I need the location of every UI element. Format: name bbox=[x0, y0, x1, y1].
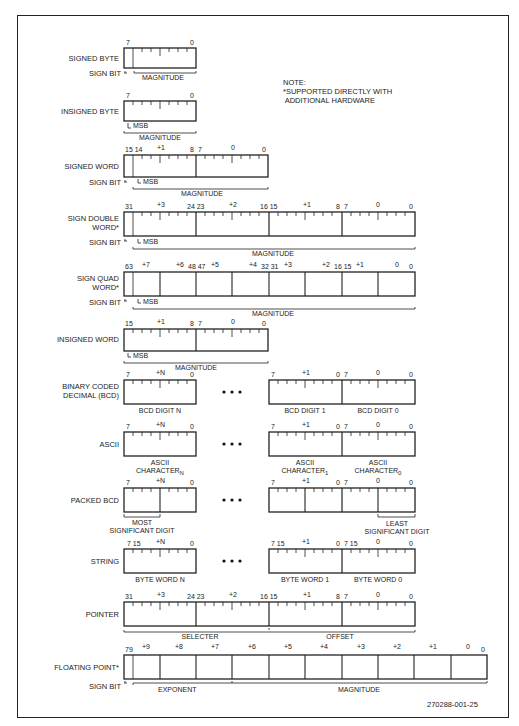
bit-7-15: 7 15 bbox=[127, 540, 141, 548]
caption-byte-word-1: BYTE WORD 1 bbox=[281, 576, 329, 584]
magnitude-label: MAGNITUDE bbox=[252, 250, 294, 258]
bit-0: 0 bbox=[190, 371, 194, 379]
bit-0: 0 bbox=[262, 146, 266, 154]
subscript: 0 bbox=[398, 470, 401, 476]
byte-offset: +1 bbox=[302, 477, 310, 485]
bcd-boxes bbox=[124, 380, 415, 404]
msb-label: MSB bbox=[143, 178, 158, 186]
label-signed-word: SIGNED WORD bbox=[64, 162, 119, 171]
bit-0: 0 bbox=[409, 371, 413, 379]
sign-bit-label: SIGN BIT bbox=[89, 682, 121, 691]
bit-16-15: 16 15 bbox=[260, 593, 278, 601]
bit-0: 0 bbox=[336, 540, 340, 548]
caption-magnitude: MAGNITUDE bbox=[338, 686, 380, 694]
magnitude-label: MAGNITUDE bbox=[181, 190, 223, 198]
bit-7-15: 7 15 bbox=[344, 540, 358, 548]
caption-ascii-1-line1: ASCII bbox=[296, 459, 314, 467]
caption-least-significant-digit: SIGNIFICANT DIGIT bbox=[365, 528, 430, 536]
bit-0: 0 bbox=[336, 479, 340, 487]
byte-offset: +N bbox=[156, 477, 165, 485]
byte-offset: +1 bbox=[303, 591, 311, 599]
byte-offset: 0 bbox=[231, 318, 235, 326]
bit-7: 7 bbox=[344, 203, 348, 211]
label-sign-quad-word-1: SIGN QUAD bbox=[77, 274, 119, 283]
magnitude-label: MAGNITUDE bbox=[252, 310, 294, 318]
bit-0: 0 bbox=[409, 479, 413, 487]
bit-7: 7 bbox=[126, 423, 130, 431]
caption-ascii-n-line1: ASCII bbox=[151, 459, 169, 467]
bit-0: 0 bbox=[262, 320, 266, 328]
byte-offset: +3 bbox=[357, 643, 365, 651]
bit-7: 7 bbox=[198, 320, 202, 328]
byte-offset: 0 bbox=[231, 144, 235, 152]
byte-offset: +3 bbox=[284, 261, 292, 269]
packed-bcd-boxes bbox=[124, 488, 415, 517]
bit-8: 8 bbox=[336, 203, 340, 211]
label-sign-double-word-1: SIGN DOUBLE bbox=[68, 214, 119, 223]
pointer-box bbox=[124, 602, 415, 632]
byte-offset: +7 bbox=[211, 643, 219, 651]
label-signed-byte: SIGNED BYTE bbox=[69, 54, 119, 63]
byte-offset: +2 bbox=[229, 201, 237, 209]
byte-offset: +9 bbox=[142, 643, 150, 651]
bit-16-15: 16 15 bbox=[334, 263, 352, 271]
bit-8: 8 bbox=[336, 593, 340, 601]
caption-text: CHARACTER bbox=[355, 467, 399, 474]
byte-offset: 0 bbox=[376, 369, 380, 377]
bit-79: 79 bbox=[125, 646, 133, 654]
byte-offset: +6 bbox=[248, 643, 256, 651]
caption-bcd-digit-1: BCD DIGIT 1 bbox=[284, 407, 325, 415]
caption-most: MOST bbox=[132, 519, 152, 527]
magnitude-label: MAGNITUDE bbox=[142, 74, 184, 82]
byte-offset: +1 bbox=[356, 261, 364, 269]
bit-7: 7 bbox=[344, 371, 348, 379]
bit-24-23: 24 23 bbox=[187, 203, 205, 211]
msb-label: MSB bbox=[143, 238, 158, 246]
caption-ascii-0-line1: ASCII bbox=[369, 459, 387, 467]
caption-offset: OFFSET bbox=[326, 633, 354, 641]
label-insigned-word: INSIGNED WORD bbox=[57, 335, 119, 344]
caption-ascii-n-line2: CHARACTERN bbox=[136, 467, 184, 477]
label-packed-bcd: PACKED BCD bbox=[71, 496, 119, 505]
byte-offset: +7 bbox=[142, 261, 150, 269]
byte-offset: +N bbox=[156, 538, 165, 546]
label-bcd-2: DECIMAL (BCD) bbox=[63, 391, 119, 400]
bit-0: 0 bbox=[190, 479, 194, 487]
msb-label: MSB bbox=[133, 122, 148, 130]
magnitude-label: MAGNITUDE bbox=[175, 364, 217, 372]
caption-text: CHARACTER bbox=[136, 467, 180, 474]
bit-0: 0 bbox=[409, 593, 413, 601]
sign-bit-label: SIGN BIT bbox=[89, 238, 121, 247]
msb-label: MSB bbox=[133, 352, 148, 360]
bit-24-23: 24 23 bbox=[187, 593, 205, 601]
bit-7: 7 bbox=[271, 423, 275, 431]
bit-0: 0 bbox=[190, 423, 194, 431]
byte-offset: +1 bbox=[429, 643, 437, 651]
bit-0: 0 bbox=[190, 92, 194, 100]
byte-offset: 0 bbox=[376, 591, 380, 599]
bit-15: 15 bbox=[125, 320, 133, 328]
caption-bcd-digit-0: BCD DIGIT 0 bbox=[357, 407, 398, 415]
byte-offset: 0 bbox=[395, 261, 399, 269]
byte-offset: 0 bbox=[376, 201, 380, 209]
bit-7: 7 bbox=[126, 92, 130, 100]
bit-7: 7 bbox=[271, 479, 275, 487]
byte-offset: +2 bbox=[229, 591, 237, 599]
bit-0: 0 bbox=[190, 540, 194, 548]
caption-ascii-1-line2: CHARACTER1 bbox=[282, 467, 329, 477]
bit-0: 0 bbox=[336, 371, 340, 379]
caption-byte-word-0: BYTE WORD 0 bbox=[354, 576, 402, 584]
sign-bit-label: SIGN BIT bbox=[89, 69, 121, 78]
label-sign-quad-word-2: WORD* bbox=[92, 283, 119, 292]
caption-selecter: SELECTER bbox=[182, 633, 219, 641]
byte-offset: +N bbox=[156, 421, 165, 429]
hardware-note: NOTE: *SUPPORTED DIRECTLY WITH ADDITIONA… bbox=[283, 78, 392, 105]
bit-7: 7 bbox=[344, 593, 348, 601]
bit-31: 31 bbox=[125, 593, 133, 601]
bit-0: 0 bbox=[409, 540, 413, 548]
byte-offset: 0 bbox=[466, 643, 470, 651]
label-pointer: POINTER bbox=[86, 610, 119, 619]
bit-0: 0 bbox=[409, 423, 413, 431]
byte-offset: +8 bbox=[175, 643, 183, 651]
byte-offset: +3 bbox=[157, 201, 165, 209]
